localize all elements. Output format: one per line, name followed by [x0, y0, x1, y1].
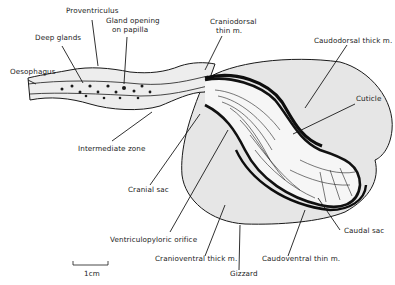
- proventriculus-outline: [28, 63, 215, 110]
- label-gizzard: Gizzard: [230, 270, 258, 278]
- diagram-canvas: Proventriculus Gland opening on papilla …: [0, 0, 395, 285]
- label-cuticle: Cuticle: [356, 95, 381, 103]
- label-caudal-sac: Caudal sac: [344, 227, 384, 235]
- label-proventriculus: Proventriculus: [66, 7, 119, 15]
- label-craniodorsal-2: thin m.: [216, 27, 242, 35]
- label-caudoventral: Caudoventral thin m.: [262, 255, 340, 263]
- label-deep-glands: Deep glands: [35, 34, 81, 42]
- label-cranioventral: Cranioventral thick m.: [155, 255, 237, 263]
- scale-bar: [73, 261, 108, 265]
- label-intermediate-zone: Intermediate zone: [78, 145, 146, 153]
- label-ventriculopyloric-orifice: Ventriculopyloric orifice: [110, 236, 197, 244]
- label-gland-opening-2: on papilla: [112, 26, 148, 34]
- label-gland-opening: Gland opening: [106, 17, 160, 25]
- label-craniodorsal: Craniodorsal: [210, 18, 257, 26]
- label-caudodorsal: Caudodorsal thick m.: [314, 37, 392, 45]
- label-cranial-sac: Cranial sac: [128, 186, 169, 194]
- label-oesophagus: Oesophagus: [10, 68, 56, 76]
- label-scale: 1cm: [84, 270, 100, 278]
